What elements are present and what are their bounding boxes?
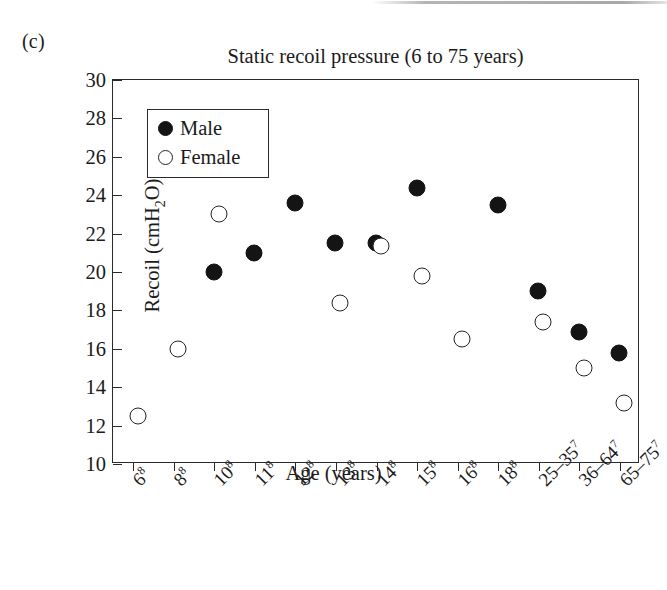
data-point-female — [129, 408, 146, 425]
legend-item-male: Male — [158, 114, 268, 143]
y-axis-tick-label: 30 — [86, 69, 107, 92]
data-point-male — [489, 196, 506, 213]
scan-artifact — [372, 1, 667, 4]
data-point-female — [575, 360, 592, 377]
y-axis-title-prefix: Recoil (cmH — [141, 207, 163, 312]
data-point-male — [246, 244, 263, 261]
data-point-male — [408, 179, 425, 196]
x-axis-tick-superscript: 7 — [608, 437, 621, 450]
y-axis-tick-label: 16 — [86, 338, 107, 361]
data-point-male — [286, 194, 303, 211]
data-point-female — [535, 313, 552, 330]
data-point-female — [332, 294, 349, 311]
panel-label: (c) — [22, 30, 45, 53]
data-point-female — [170, 340, 187, 357]
x-axis-tick-superscript: 7 — [567, 437, 580, 450]
y-axis-tick-label: 24 — [86, 184, 107, 207]
y-axis-title-suffix: O) — [141, 179, 163, 201]
data-point-female — [616, 394, 633, 411]
y-axis-tick: 14 — [113, 387, 122, 388]
y-axis-tick: 12 — [113, 426, 122, 427]
legend-label-male: Male — [180, 117, 222, 140]
y-axis-tick-label: 28 — [86, 107, 107, 130]
y-axis-tick-label: 22 — [86, 223, 107, 246]
data-point-female — [210, 206, 227, 223]
x-axis-title: Age (years) — [0, 462, 667, 485]
legend: Male Female — [147, 109, 269, 178]
y-axis-tick-label: 18 — [86, 299, 107, 322]
y-axis-tick: 18 — [113, 310, 122, 311]
open-circle-icon — [158, 150, 173, 165]
y-axis-tick-label: 20 — [86, 261, 107, 284]
legend-label-female: Female — [180, 146, 240, 169]
data-point-female — [454, 331, 471, 348]
y-axis-tick-label: 26 — [86, 146, 107, 169]
y-axis-title-subscript: 2 — [153, 200, 168, 207]
chart-title: Static recoil pressure (6 to 75 years) — [112, 45, 639, 68]
y-axis-tick: 22 — [113, 234, 122, 235]
y-axis-tick: 30 — [113, 80, 122, 81]
data-point-female — [413, 267, 430, 284]
y-axis-tick: 24 — [113, 195, 122, 196]
x-axis-tick-superscript: 7 — [648, 437, 661, 450]
data-point-male — [611, 344, 628, 361]
y-axis-tick: 20 — [113, 272, 122, 273]
data-point-male — [205, 264, 222, 281]
filled-circle-icon — [158, 121, 173, 136]
legend-item-female: Female — [158, 143, 268, 172]
data-point-male — [570, 323, 587, 340]
data-point-male — [327, 235, 344, 252]
data-point-female — [373, 238, 390, 255]
y-axis-tick-label: 14 — [86, 376, 107, 399]
data-point-male — [530, 283, 547, 300]
plot-area: Recoil (cmH2O) 3028262422201816141210 68… — [112, 79, 639, 463]
y-axis-tick: 28 — [113, 118, 122, 119]
y-axis-tick-label: 12 — [86, 415, 107, 438]
y-axis-tick: 26 — [113, 157, 122, 158]
y-axis-tick: 16 — [113, 349, 122, 350]
